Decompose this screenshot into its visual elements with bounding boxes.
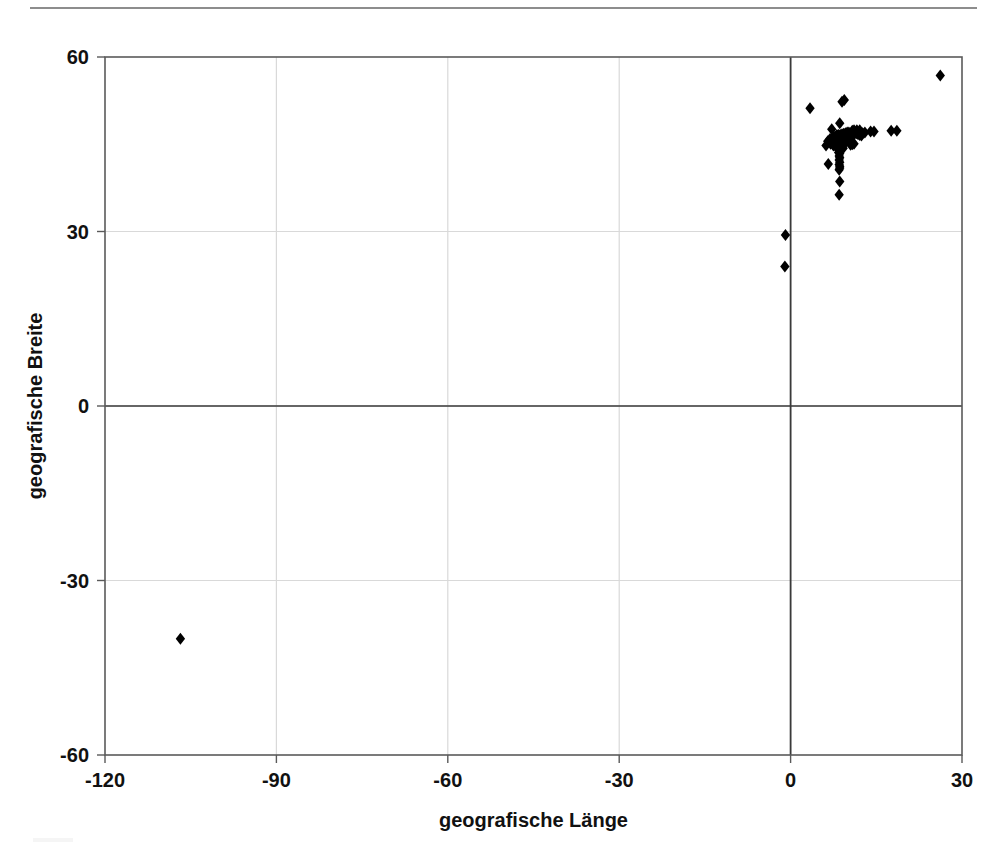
x-tick-label: 30 [951,769,973,791]
y-tick-label: 30 [67,221,89,243]
y-tick-label: 0 [78,395,89,417]
y-tick-label: -30 [60,570,89,592]
y-tick-label: 60 [67,46,89,68]
scan-artifact [33,838,73,842]
figure-container: -120-90-60-3003060300-30-60geografische … [0,0,1007,849]
y-tick-label: -60 [60,744,89,766]
plot-area-wrapper: -120-90-60-3003060300-30-60geografische … [0,0,1007,849]
x-tick-label: 0 [785,769,796,791]
x-tick-label: -90 [262,769,291,791]
x-tick-label: -30 [605,769,634,791]
x-axis-title: geografische Länge [439,809,628,831]
scatter-chart: -120-90-60-3003060300-30-60geografische … [0,0,1007,849]
x-tick-label: -60 [433,769,462,791]
x-tick-label: -120 [85,769,125,791]
y-axis-title: geografische Breite [24,313,46,500]
